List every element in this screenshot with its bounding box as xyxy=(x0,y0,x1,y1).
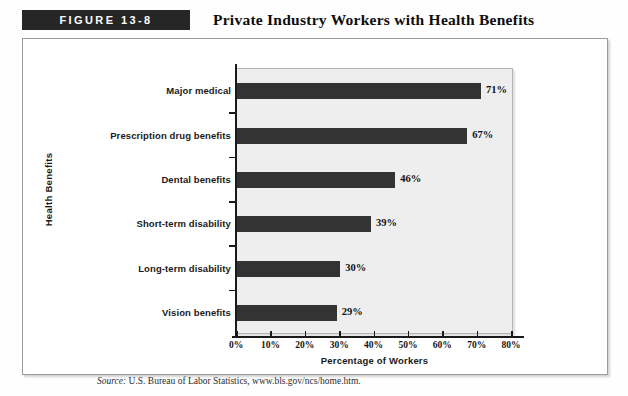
x-axis-tick xyxy=(511,331,513,338)
x-axis-tick xyxy=(408,331,410,338)
x-axis-tick xyxy=(339,331,341,338)
bar-value-label: 46% xyxy=(400,172,421,186)
y-axis-tick-label: Prescription drug benefits xyxy=(110,129,231,143)
bar-value-label: 71% xyxy=(486,83,507,97)
plot-area xyxy=(236,68,513,334)
y-axis-tick-label: Long-term disability xyxy=(138,262,231,276)
y-axis-tick xyxy=(229,112,236,114)
bar xyxy=(237,216,371,232)
x-axis-tick-label: 80% xyxy=(491,340,531,350)
x-axis-tick xyxy=(270,331,272,338)
y-axis-tick-labels: Major medicalPrescription drug benefitsD… xyxy=(118,69,231,333)
y-axis-tick-label: Major medical xyxy=(166,84,231,98)
x-axis-title: Percentage of Workers xyxy=(236,355,513,366)
bar-value-label: 30% xyxy=(345,261,366,275)
y-axis-tick-label: Short-term disability xyxy=(137,217,231,231)
y-axis-tick-label: Vision benefits xyxy=(162,306,231,320)
figure-header: FIGURE 13-8 Private Industry Workers wit… xyxy=(0,10,628,34)
bar-value-label: 67% xyxy=(472,128,493,142)
figure-title: Private Industry Workers with Health Ben… xyxy=(213,10,534,30)
bar xyxy=(237,83,481,99)
x-axis-tick xyxy=(477,331,479,338)
source-note: Source: U.S. Bureau of Labor Statistics,… xyxy=(97,376,361,386)
x-axis-tick xyxy=(236,331,238,338)
y-axis-tick xyxy=(229,290,236,292)
source-text: U.S. Bureau of Labor Statistics, www.bls… xyxy=(126,376,361,386)
y-axis-tick xyxy=(229,245,236,247)
x-axis-line xyxy=(232,336,524,338)
source-label: Source: xyxy=(97,376,126,386)
y-axis-title: Health Benefits xyxy=(43,130,54,250)
y-axis-tick xyxy=(229,201,236,203)
bar-value-label: 29% xyxy=(342,305,363,319)
y-axis-tick-label: Dental benefits xyxy=(161,173,231,187)
figure-number-badge: FIGURE 13-8 xyxy=(22,10,190,30)
figure-frame: Health Benefits Major medicalPrescriptio… xyxy=(22,38,608,375)
bar xyxy=(237,305,337,321)
bar xyxy=(237,128,467,144)
x-axis-tick xyxy=(374,331,376,338)
bar xyxy=(237,172,395,188)
x-axis-tick xyxy=(305,331,307,338)
bar-value-label: 39% xyxy=(376,216,397,230)
bar-chart: Health Benefits Major medicalPrescriptio… xyxy=(23,39,609,376)
x-axis-tick xyxy=(442,331,444,338)
y-axis-tick xyxy=(229,157,236,159)
bar xyxy=(237,261,340,277)
